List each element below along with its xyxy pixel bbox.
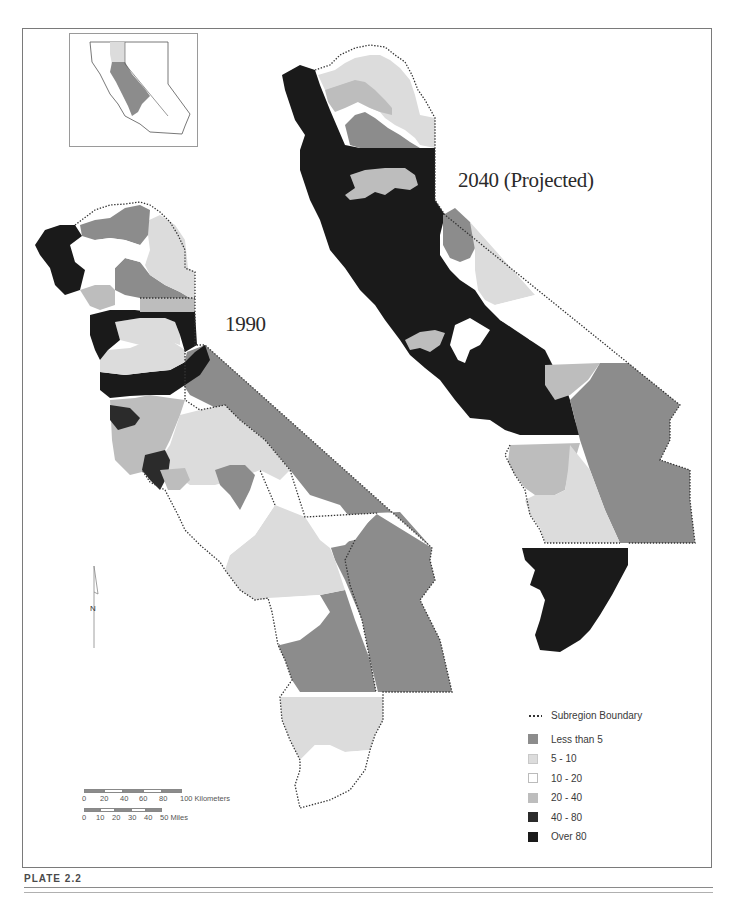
region-1990-small-20-40[interactable] bbox=[160, 468, 190, 490]
mile-scale-labels: 0 10 20 30 40 50 Miles bbox=[84, 813, 182, 825]
map-1990-label: 1990 bbox=[225, 312, 266, 337]
mile-scale-bar bbox=[84, 808, 182, 812]
swatch-20-40 bbox=[528, 793, 538, 803]
dotted-line-icon bbox=[528, 715, 542, 717]
region-1990-nw-20-40[interactable] bbox=[80, 285, 115, 310]
inset-locator-map bbox=[69, 33, 198, 147]
region-2040-east-5-10[interactable] bbox=[470, 222, 535, 305]
plate-title: PLATE 2.2 bbox=[24, 873, 82, 884]
swatch-less-than-5 bbox=[528, 734, 538, 744]
region-1990-square-5-10[interactable] bbox=[115, 318, 180, 345]
legend-item: Over 80 bbox=[528, 827, 642, 847]
plate-rule bbox=[24, 887, 713, 888]
north-arrow-icon: N bbox=[84, 566, 104, 651]
region-1990-tail-white[interactable] bbox=[295, 745, 370, 805]
plate-rule bbox=[24, 892, 713, 893]
swatch-40-80 bbox=[528, 812, 538, 822]
legend-item: Less than 5 bbox=[528, 730, 642, 750]
map-2040-label: 2040 (Projected) bbox=[458, 168, 594, 193]
legend-item: 5 - 10 bbox=[528, 749, 642, 769]
legend-item: 20 - 40 bbox=[528, 788, 642, 808]
km-scale-bar bbox=[84, 789, 182, 793]
map-legend: Subregion Boundary Less than 5 5 - 10 10… bbox=[528, 706, 642, 847]
swatch-5-10 bbox=[528, 754, 538, 764]
swatch-over-80 bbox=[528, 832, 538, 842]
km-scale-labels: 0 20 40 60 80 100 Kilometers bbox=[84, 794, 182, 806]
swatch-10-20 bbox=[528, 773, 538, 783]
scale-bars: 0 20 40 60 80 100 Kilometers 0 10 20 30 … bbox=[84, 789, 182, 825]
region-2040-south-over80[interactable] bbox=[522, 548, 628, 652]
california-outline-icon bbox=[70, 34, 197, 146]
north-arrow: N bbox=[84, 566, 104, 655]
legend-item: 40 - 80 bbox=[528, 808, 642, 828]
region-1990-strip-20-40[interactable] bbox=[140, 298, 195, 312]
legend-item: 10 - 20 bbox=[528, 769, 642, 789]
legend-item-boundary: Subregion Boundary bbox=[528, 706, 642, 726]
svg-text:N: N bbox=[90, 604, 96, 613]
